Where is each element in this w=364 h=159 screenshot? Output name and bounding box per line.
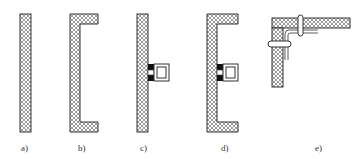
panel-b	[70, 14, 98, 132]
label-b: b)	[78, 143, 86, 153]
label-e: e)	[315, 143, 322, 153]
label-c: c)	[140, 143, 147, 153]
bracket-c	[148, 64, 169, 81]
label-a: a)	[21, 143, 28, 153]
panel-c	[137, 14, 169, 132]
bolt-vertical	[298, 15, 303, 36]
panel-a	[20, 14, 31, 132]
bracket-d	[217, 64, 238, 81]
diagram-canvas: a) b) c) d) e)	[0, 0, 364, 159]
label-d: d)	[221, 143, 229, 153]
bolt-horizontal	[268, 41, 291, 47]
panel-e	[268, 15, 350, 87]
panel-d	[207, 14, 238, 132]
